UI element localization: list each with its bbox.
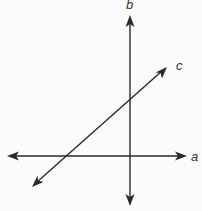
diagram-canvas: a b c (0, 0, 202, 211)
label-a: a (191, 149, 198, 164)
line-a (7, 152, 187, 161)
label-b: b (126, 0, 133, 12)
line-b (126, 15, 135, 206)
line-c (32, 67, 167, 187)
arrowhead-up-right-icon (156, 67, 168, 79)
label-c: c (176, 58, 183, 73)
